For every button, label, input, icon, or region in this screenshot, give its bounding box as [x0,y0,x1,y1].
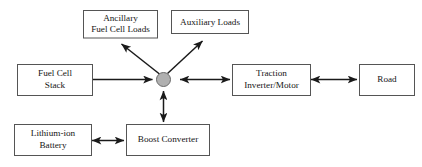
edge-junction-to-ancillary-fuel-cell-loads [122,44,160,74]
node-traction-inverter-motor[interactable]: Traction Inverter/Motor [233,65,311,96]
node-label-fuel-cell-stack-line2: Stack [45,80,66,90]
edge-junction-to-auxiliary-loads [168,41,203,74]
node-boost-converter[interactable]: Boost Converter [127,125,210,156]
node-label-auxiliary-loads: Auxiliary Loads [180,17,240,27]
node-label-traction-line2: Inverter/Motor [244,80,299,90]
node-ancillary-fuel-cell-loads[interactable]: Ancillary Fuel Cell Loads [84,11,158,39]
node-power-bus-junction[interactable] [157,73,171,87]
powertrain-block-diagram: Ancillary Fuel Cell Loads Auxiliary Load… [0,0,422,167]
diagram-canvas: Ancillary Fuel Cell Loads Auxiliary Load… [0,0,422,167]
node-label-road: Road [377,74,397,84]
node-label-ancillary-line2: Fuel Cell Loads [91,24,150,34]
node-label-fuel-cell-stack-line1: Fuel Cell [38,68,72,78]
node-road[interactable]: Road [360,65,415,96]
node-label-ancillary-line1: Ancillary [103,13,138,23]
node-label-battery-line1: Lithium-ion [31,128,76,138]
node-auxiliary-loads[interactable]: Auxiliary Loads [172,11,249,34]
node-label-traction-line1: Traction [256,68,287,78]
node-fuel-cell-stack[interactable]: Fuel Cell Stack [18,65,93,96]
node-lithium-ion-battery[interactable]: Lithium-ion Battery [15,125,92,156]
node-label-battery-line2: Battery [39,140,66,150]
node-label-boost-converter: Boost Converter [138,134,198,144]
